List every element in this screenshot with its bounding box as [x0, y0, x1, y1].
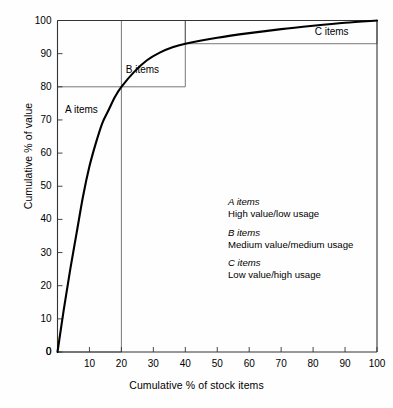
cumulative-value-curve — [58, 21, 378, 353]
legend: A itemsHigh value/low usageB itemsMedium… — [228, 196, 353, 282]
zone-boxes — [58, 21, 378, 353]
axes — [58, 21, 378, 353]
y-tick-marks — [58, 21, 63, 353]
zone-label-a: A items — [65, 104, 98, 115]
legend-body-2: Low value/high usage — [228, 269, 353, 281]
legend-heading-2: C items — [228, 257, 353, 269]
legend-body-1: Medium value/medium usage — [228, 239, 353, 251]
legend-body-0: High value/low usage — [228, 208, 353, 220]
axis-lines — [58, 21, 378, 353]
legend-heading-1: B items — [228, 227, 353, 239]
legend-heading-0: A items — [228, 196, 353, 208]
x-tick-marks — [58, 347, 378, 352]
abc-analysis-chart: Cumulative % of value Cumulative % of st… — [0, 0, 393, 408]
zone-label-c: C items — [315, 26, 349, 37]
zone-box-a — [58, 87, 122, 352]
zone-label-b: B items — [126, 64, 159, 75]
